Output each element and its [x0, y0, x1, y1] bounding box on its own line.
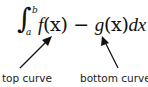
arrow-to-f-icon — [20, 36, 52, 68]
bottom-curve-label: bottom curve — [80, 72, 148, 84]
arrow-to-g-icon — [101, 36, 118, 68]
top-curve-label: top curve — [2, 72, 52, 84]
